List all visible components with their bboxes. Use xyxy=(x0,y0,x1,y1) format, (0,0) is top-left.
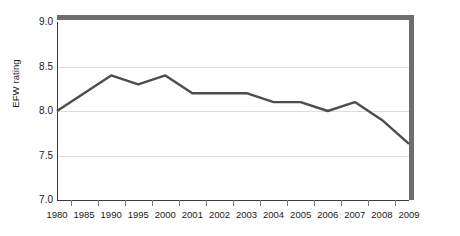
x-axis-tick-label: 2006 xyxy=(314,209,341,220)
x-axis-tick xyxy=(368,200,369,206)
x-axis-tick-label: 2003 xyxy=(233,209,260,220)
efw-rating-line-chart: EFW rating 7.07.58.08.59.0 1980198519901… xyxy=(0,0,460,236)
x-axis-tick xyxy=(125,200,126,206)
x-axis-tick xyxy=(395,200,396,206)
y-axis-tick-label: 9.0 xyxy=(19,17,53,27)
x-axis-tick xyxy=(341,200,342,206)
x-axis-tick-label: 2004 xyxy=(260,209,287,220)
x-axis-tick xyxy=(233,200,234,206)
y-axis-tick-label: 7.0 xyxy=(19,195,53,205)
x-axis-tick-label: 2000 xyxy=(152,209,179,220)
x-axis-tick xyxy=(287,200,288,206)
y-axis-tick-label: 7.5 xyxy=(19,151,53,161)
y-axis-tick-label: 8.0 xyxy=(19,106,53,116)
x-axis-tick-label: 2002 xyxy=(206,209,233,220)
x-axis-tick-label: 2001 xyxy=(179,209,206,220)
x-axis-tick-label: 2005 xyxy=(287,209,314,220)
x-axis-tick xyxy=(179,200,180,206)
series-polyline xyxy=(57,75,409,144)
plot-frame-top xyxy=(57,15,414,20)
x-axis-tick xyxy=(260,200,261,206)
y-axis-tick-label: 8.5 xyxy=(19,62,53,72)
data-series-line xyxy=(57,22,409,200)
plot-frame-right xyxy=(409,15,414,200)
x-axis-tick-label: 1995 xyxy=(125,209,152,220)
x-axis-tick xyxy=(152,200,153,206)
x-axis-tick-label: 2007 xyxy=(341,209,368,220)
x-axis-tick-label: 2009 xyxy=(395,209,422,220)
x-axis-tick xyxy=(206,200,207,206)
x-axis-tick xyxy=(71,200,72,206)
x-axis-tick xyxy=(314,200,315,206)
x-axis-tick-label: 1990 xyxy=(98,209,125,220)
y-axis-title: EFW rating xyxy=(10,39,21,129)
x-axis-tick xyxy=(98,200,99,206)
x-axis-tick-label: 2008 xyxy=(368,209,395,220)
x-axis-tick-label: 1980 xyxy=(43,209,70,220)
x-axis-tick-label: 1985 xyxy=(71,209,98,220)
